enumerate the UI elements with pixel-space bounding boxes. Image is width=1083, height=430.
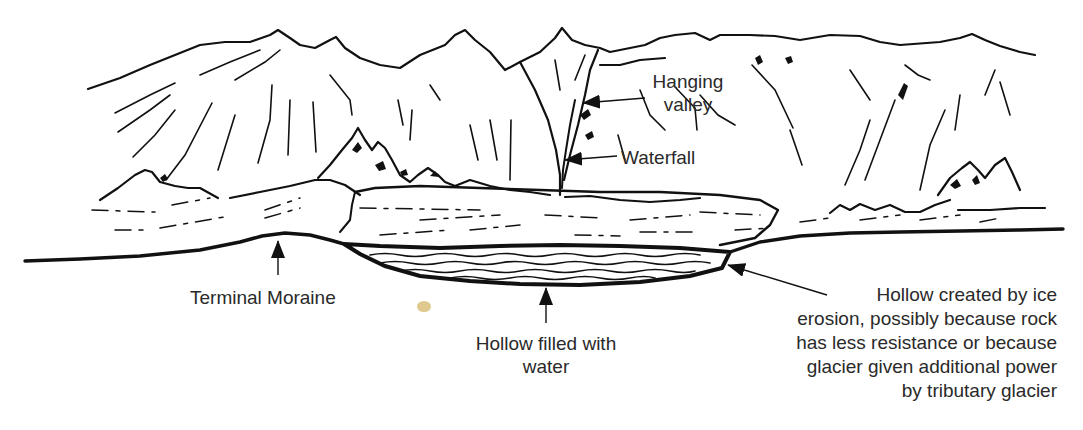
valley-floor-texture	[92, 198, 1000, 236]
label-hollow-ice-erosion: Hollow created by ice erosion, possibly …	[727, 283, 1057, 403]
label-line: water	[446, 355, 646, 378]
label-line: has less resistance or because	[727, 331, 1057, 355]
label-line: valley	[646, 93, 730, 116]
glacial-valley-diagram: Hanging valley Waterfall Terminal Morain…	[0, 0, 1083, 430]
mountain-ridges	[88, 28, 1045, 213]
label-hanging-valley: Hanging valley	[646, 70, 730, 116]
label-line: by tributary glacier	[727, 379, 1057, 403]
hollow-with-water	[344, 244, 730, 285]
label-line: erosion, possibly because rock	[727, 307, 1057, 331]
label-line: Hollow created by ice	[727, 283, 1057, 307]
label-line: glacier given additional power	[727, 355, 1057, 379]
label-line: Hanging	[646, 70, 730, 93]
label-waterfall: Waterfall	[621, 146, 695, 169]
waterfall-arrow	[565, 156, 617, 160]
label-terminal-moraine: Terminal Moraine	[190, 286, 336, 309]
paper-stain	[417, 301, 431, 312]
hanging-valley-arrow	[583, 98, 645, 103]
label-hollow-filled-with-water: Hollow filled with water	[446, 332, 646, 378]
label-line: Hollow filled with	[446, 332, 646, 355]
